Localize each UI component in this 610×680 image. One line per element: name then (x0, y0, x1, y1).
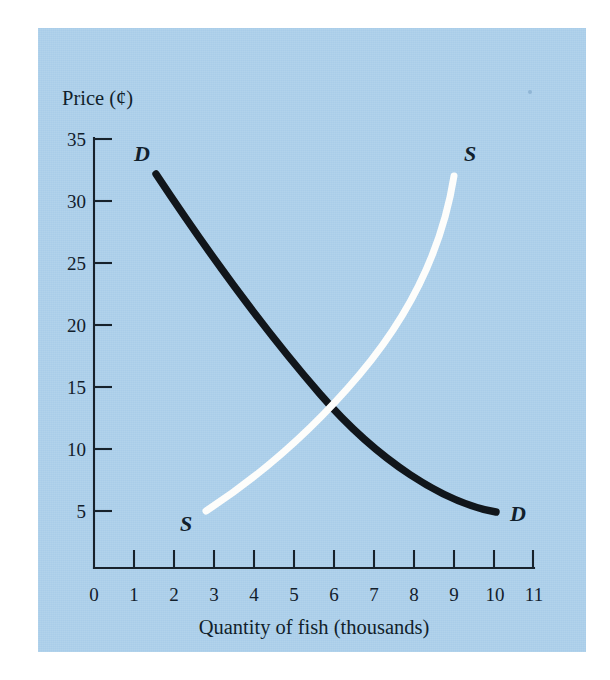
supply-demand-chart: 35 30 25 20 15 10 5 0 1 2 3 4 5 6 7 8 9 … (38, 28, 586, 652)
demand-label-lower: D (509, 501, 526, 526)
demand-label-upper: D (133, 141, 150, 166)
x-tick-label-8: 8 (409, 584, 419, 605)
x-tick-labels: 0 1 2 3 4 5 6 7 8 9 10 11 (89, 584, 543, 605)
supply-curve (206, 176, 454, 511)
supply-label-lower: S (180, 511, 192, 536)
y-tick-label-35: 35 (67, 129, 86, 150)
x-tick-label-10: 10 (486, 584, 505, 605)
y-tick-labels: 35 30 25 20 15 10 5 (67, 129, 86, 522)
chart-plate: 35 30 25 20 15 10 5 0 1 2 3 4 5 6 7 8 9 … (38, 28, 586, 652)
x-tick-label-2: 2 (169, 584, 179, 605)
y-tick-label-5: 5 (77, 501, 87, 522)
y-tick-label-25: 25 (67, 253, 86, 274)
y-tick-label-15: 15 (67, 377, 86, 398)
x-tick-label-11: 11 (525, 584, 543, 605)
y-axis-title: Price (¢) (62, 87, 133, 110)
supply-label-upper: S (464, 141, 476, 166)
x-tick-label-4: 4 (249, 584, 259, 605)
y-tick-label-20: 20 (67, 315, 86, 336)
x-tick-label-3: 3 (209, 584, 219, 605)
x-tick-label-6: 6 (329, 584, 339, 605)
y-tick-label-30: 30 (67, 191, 86, 212)
x-tick-label-0: 0 (89, 584, 99, 605)
x-tick-label-9: 9 (449, 584, 459, 605)
x-tick-label-7: 7 (369, 584, 379, 605)
x-tick-label-5: 5 (289, 584, 299, 605)
x-axis-title: Quantity of fish (thousands) (199, 616, 430, 639)
figure-root: 35 30 25 20 15 10 5 0 1 2 3 4 5 6 7 8 9 … (0, 0, 610, 680)
x-tick-label-1: 1 (129, 584, 139, 605)
y-tick-label-10: 10 (67, 439, 86, 460)
